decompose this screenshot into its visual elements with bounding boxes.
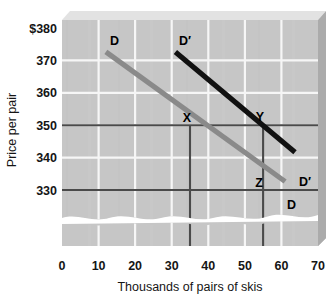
y-tick-370: 370	[36, 54, 57, 68]
curve-label-d-bottom: D	[287, 198, 296, 212]
y-tick-380: $380	[29, 22, 57, 36]
curve-label-d-top: D	[110, 34, 119, 48]
x-tick-40: 40	[201, 259, 215, 273]
y-tick-330: 330	[36, 184, 57, 198]
chart-figure: $380 370 360 350 340 330 0 10 20 30 40 5…	[0, 0, 332, 308]
curve-label-d-prime-top: D′	[179, 34, 191, 48]
x-tick-0: 0	[59, 259, 66, 273]
x-tick-10: 10	[92, 259, 106, 273]
point-label-y: Y	[256, 110, 265, 124]
y-tick-360: 360	[36, 86, 57, 100]
y-axis-title: Price per pair	[5, 93, 19, 167]
x-tick-50: 50	[238, 259, 252, 273]
y-tick-340: 340	[36, 151, 57, 165]
x-tick-60: 60	[274, 259, 288, 273]
x-tick-30: 30	[165, 259, 179, 273]
demand-shift-chart: $380 370 360 350 340 330 0 10 20 30 40 5…	[0, 0, 332, 308]
point-label-x: X	[183, 111, 192, 125]
panel-top-bevel	[62, 11, 326, 20]
y-tick-350: 350	[36, 119, 57, 133]
x-axis-title: Thousands of pairs of skis	[117, 280, 262, 294]
x-tick-70: 70	[311, 259, 325, 273]
curve-label-d-prime-bottom: D′	[299, 175, 311, 189]
panel-side-bevel	[318, 11, 326, 246]
x-tick-20: 20	[128, 259, 142, 273]
point-label-z: Z	[255, 176, 263, 190]
